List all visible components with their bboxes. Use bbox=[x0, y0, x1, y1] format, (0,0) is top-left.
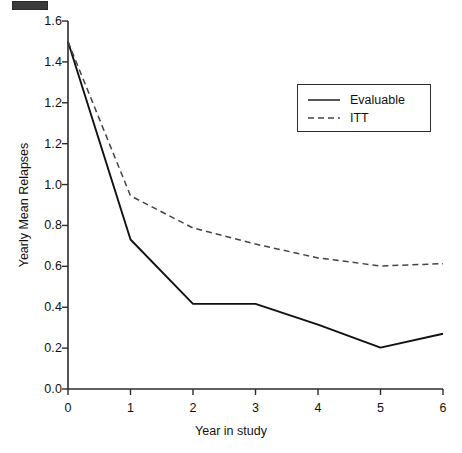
x-tick-label: 2 bbox=[181, 402, 205, 414]
y-tick-label: 1.6 bbox=[28, 15, 62, 27]
chart-canvas bbox=[0, 0, 462, 453]
y-tick-label: 1.2 bbox=[28, 138, 62, 150]
plot-area: 1.61.41.21.21.00.80.60.40.20.0 0123456 Y… bbox=[0, 0, 462, 453]
y-axis-ticks bbox=[62, 21, 68, 389]
y-tick-label: 1.4 bbox=[28, 56, 62, 68]
y-tick-label: 0.4 bbox=[28, 301, 62, 313]
y-tick-label: 0.8 bbox=[28, 219, 62, 231]
chart-figure: 1.61.41.21.21.00.80.60.40.20.0 0123456 Y… bbox=[0, 0, 462, 453]
legend: Evaluable ITT bbox=[297, 84, 431, 132]
x-tick-label: 1 bbox=[119, 402, 143, 414]
legend-dashed-line-icon bbox=[307, 113, 341, 123]
y-tick-label-group: 1.61.41.21.21.00.80.60.40.20.0 bbox=[26, 0, 62, 453]
x-tick-label: 5 bbox=[369, 402, 393, 414]
y-axis-title: Yearly Mean Relapses bbox=[17, 95, 31, 315]
series-line-itt bbox=[68, 42, 443, 266]
legend-solid-line-icon bbox=[307, 95, 341, 105]
legend-item-evaluable: Evaluable bbox=[307, 92, 405, 108]
y-tick-label: 0.6 bbox=[28, 260, 62, 272]
legend-item-itt: ITT bbox=[307, 110, 369, 126]
x-tick-label: 6 bbox=[431, 402, 455, 414]
x-tick-label-group: 0123456 bbox=[0, 394, 462, 414]
legend-label-evaluable: Evaluable bbox=[350, 94, 405, 107]
y-tick-label: 1.2 bbox=[28, 97, 62, 109]
axis-lines bbox=[68, 21, 443, 389]
x-tick-label: 4 bbox=[306, 402, 330, 414]
x-tick-label: 0 bbox=[56, 402, 80, 414]
y-tick-label: 0.2 bbox=[28, 342, 62, 354]
x-axis-title: Year in study bbox=[0, 424, 462, 438]
legend-label-itt: ITT bbox=[350, 112, 369, 125]
x-tick-label: 3 bbox=[244, 402, 268, 414]
y-tick-label: 1.0 bbox=[28, 179, 62, 191]
